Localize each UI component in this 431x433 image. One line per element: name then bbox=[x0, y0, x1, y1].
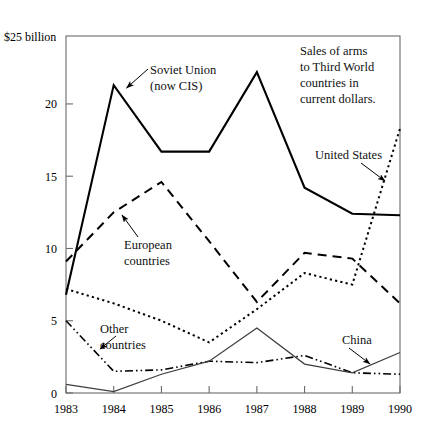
annotation-european-line2: countries bbox=[124, 254, 170, 268]
x-tick-label: 1989 bbox=[340, 402, 364, 416]
annotation-soviet-line2: (now CIS) bbox=[150, 79, 202, 93]
annotation-soviet-line1: Soviet Union bbox=[150, 63, 217, 77]
caption-line1: Sales of arms bbox=[300, 44, 367, 58]
caption-line2: to Third World bbox=[300, 60, 375, 74]
y-tick-label: 0 bbox=[51, 387, 57, 401]
annotation-european-line1: European bbox=[124, 238, 173, 252]
annotation-china: China bbox=[342, 333, 372, 347]
x-tick-label: 1990 bbox=[388, 402, 412, 416]
annotation-united-states-line1: United States bbox=[315, 148, 382, 162]
y-tick-label: 15 bbox=[45, 170, 57, 184]
annotation-other-line2: countries bbox=[100, 338, 146, 352]
y-axis-unit-label: $25 billion bbox=[4, 30, 56, 44]
x-tick-label: 1983 bbox=[54, 402, 78, 416]
x-tick-label: 1986 bbox=[197, 402, 221, 416]
chart-figure: 05101520 1983198419851986198719881989199… bbox=[0, 0, 431, 433]
y-tick-label: 5 bbox=[51, 314, 57, 328]
annotation-united-states: United States bbox=[315, 148, 382, 162]
y-tick-label: 10 bbox=[45, 242, 57, 256]
x-tick-label: 1987 bbox=[245, 402, 269, 416]
x-tick-label: 1988 bbox=[293, 402, 317, 416]
annotation-china-line1: China bbox=[342, 333, 372, 347]
caption-line3: countries in bbox=[300, 76, 359, 90]
x-tick-label: 1985 bbox=[149, 402, 173, 416]
y-tick-label: 20 bbox=[45, 97, 57, 111]
caption-line4: current dollars. bbox=[300, 92, 376, 106]
x-tick-label: 1984 bbox=[102, 402, 126, 416]
arms-sales-line-chart: 05101520 1983198419851986198719881989199… bbox=[0, 0, 431, 433]
annotation-other-line1: Other bbox=[100, 322, 129, 336]
